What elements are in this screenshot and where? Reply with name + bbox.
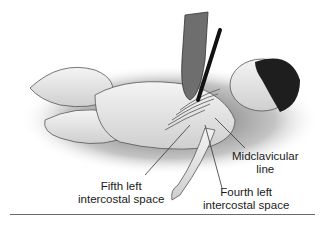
label-fifth-intercostal: Fifth left intercostal space [78,180,164,206]
label-midclavicular-line: Midclavicular line [232,150,298,176]
label-line: Fourth left [203,186,289,199]
label-line: Fifth left [78,180,164,193]
label-line: intercostal space [78,193,164,206]
label-line: intercostal space [203,199,289,212]
label-line: line [232,163,298,176]
label-line: Midclavicular [232,150,298,163]
bottom-rule [10,214,315,215]
label-fourth-intercostal: Fourth left intercostal space [203,186,289,212]
